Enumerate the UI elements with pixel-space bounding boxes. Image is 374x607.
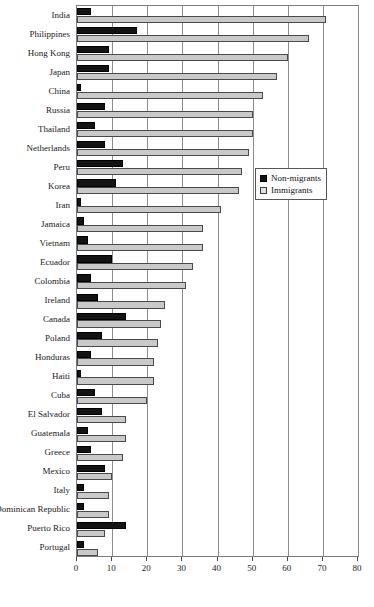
- bar-row: [77, 463, 358, 482]
- x-tick-label-20: 20: [134, 563, 158, 573]
- y-axis-label: Thailand: [38, 124, 70, 134]
- x-tick-mark-70: [322, 557, 323, 561]
- y-axis-label: Peru: [54, 162, 71, 172]
- y-axis-label: Honduras: [35, 352, 70, 362]
- x-tick-label-70: 70: [310, 563, 334, 573]
- y-axis-label: Canada: [43, 314, 70, 324]
- y-axis-label: Portugal: [40, 542, 71, 552]
- bar-non-migrants: [77, 255, 112, 262]
- y-axis-label: Iran: [56, 200, 71, 210]
- x-tick-mark-30: [181, 557, 182, 561]
- y-axis-label: Colombia: [35, 276, 71, 286]
- bar-immigrants: [77, 225, 203, 232]
- bar-immigrants: [77, 492, 109, 499]
- bar-non-migrants: [77, 236, 88, 243]
- legend-item-immigrants: Immigrants: [260, 184, 321, 196]
- y-axis-label: Guatemala: [31, 428, 70, 438]
- bar-immigrants: [77, 35, 309, 42]
- bar-immigrants: [77, 339, 158, 346]
- bar-immigrants: [77, 397, 147, 404]
- x-tick-mark-10: [111, 557, 112, 561]
- bar-row: [77, 6, 358, 25]
- bar-non-migrants: [77, 503, 84, 510]
- bar-non-migrants: [77, 217, 84, 224]
- y-axis-label: Mexico: [43, 466, 71, 476]
- x-tick-label-10: 10: [99, 563, 123, 573]
- bar-immigrants: [77, 16, 326, 23]
- bar-immigrants: [77, 320, 161, 327]
- bar-row: [77, 501, 358, 520]
- bar-row: [77, 292, 358, 311]
- bar-non-migrants: [77, 122, 95, 129]
- gridline-80: [358, 6, 359, 556]
- bar-non-migrants: [77, 65, 109, 72]
- bar-row: [77, 349, 358, 368]
- bar-non-migrants: [77, 313, 126, 320]
- y-axis-label: Japan: [50, 67, 71, 77]
- bar-immigrants: [77, 549, 98, 556]
- y-axis-labels: IndiaPhilippinesHong KongJapanChinaRussi…: [0, 5, 73, 557]
- bar-row: [77, 63, 358, 82]
- bar-immigrants: [77, 244, 203, 251]
- bar-immigrants: [77, 111, 253, 118]
- x-tick-mark-50: [252, 557, 253, 561]
- bar-non-migrants: [77, 179, 116, 186]
- y-axis-label: Netherlands: [27, 143, 70, 153]
- y-axis-label: Vietnam: [40, 238, 70, 248]
- bar-row: [77, 253, 358, 272]
- bar-row: [77, 215, 358, 234]
- bar-non-migrants: [77, 408, 102, 415]
- bar-non-migrants: [77, 427, 88, 434]
- bar-immigrants: [77, 416, 126, 423]
- bar-row: [77, 406, 358, 425]
- bar-row: [77, 330, 358, 349]
- bar-non-migrants: [77, 160, 123, 167]
- bar-non-migrants: [77, 522, 126, 529]
- bar-non-migrants: [77, 274, 91, 281]
- bar-immigrants: [77, 149, 249, 156]
- x-tick-label-50: 50: [240, 563, 264, 573]
- bar-immigrants: [77, 301, 165, 308]
- bar-immigrants: [77, 92, 263, 99]
- bar-immigrants: [77, 511, 109, 518]
- bar-non-migrants: [77, 46, 109, 53]
- legend-label-immigrants: Immigrants: [271, 185, 313, 195]
- y-axis-label: Jamaica: [41, 219, 70, 229]
- bar-immigrants: [77, 282, 186, 289]
- x-tick-label-80: 80: [345, 563, 369, 573]
- x-tick-mark-60: [287, 557, 288, 561]
- chart-title: Table 4. Percentage of ...: [76, 0, 359, 1]
- bar-row: [77, 444, 358, 463]
- bar-immigrants: [77, 206, 221, 213]
- bar-non-migrants: [77, 465, 105, 472]
- y-axis-label: Philippines: [29, 29, 70, 39]
- y-axis-label: China: [49, 86, 71, 96]
- y-axis-label: El Salvador: [28, 409, 70, 419]
- legend-swatch-immigrants: [260, 187, 267, 194]
- bar-row: [77, 387, 358, 406]
- y-axis-label: Korea: [48, 181, 70, 191]
- legend-item-non-migrants: Non-migrants: [260, 172, 321, 184]
- bar-rows: [77, 6, 358, 556]
- bar-row: [77, 311, 358, 330]
- bar-immigrants: [77, 168, 242, 175]
- bar-non-migrants: [77, 446, 91, 453]
- y-axis-label: Italy: [54, 485, 71, 495]
- legend: Non-migrants Immigrants: [255, 168, 327, 200]
- x-tick-label-40: 40: [205, 563, 229, 573]
- x-tick-label-0: 0: [64, 563, 88, 573]
- bar-non-migrants: [77, 389, 95, 396]
- bar-row: [77, 139, 358, 158]
- x-tick-mark-40: [217, 557, 218, 561]
- bar-non-migrants: [77, 541, 84, 548]
- bar-non-migrants: [77, 141, 105, 148]
- legend-swatch-non-migrants: [260, 175, 267, 182]
- bar-non-migrants: [77, 370, 81, 377]
- bar-non-migrants: [77, 27, 137, 34]
- bar-immigrants: [77, 530, 105, 537]
- y-axis-label: India: [52, 10, 71, 20]
- bar-row: [77, 44, 358, 63]
- bar-immigrants: [77, 473, 112, 480]
- bar-row: [77, 482, 358, 501]
- y-axis-label: Cuba: [51, 390, 70, 400]
